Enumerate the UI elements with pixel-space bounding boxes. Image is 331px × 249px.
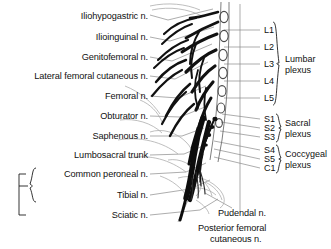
- segment-label-s3: S3: [264, 132, 275, 142]
- label-pudendal-nerve: Pudendal n.: [218, 208, 266, 218]
- brace-coccygeal-plexus: [276, 145, 281, 173]
- segment-label-l1: L1: [264, 25, 274, 35]
- label-coccygeal-plexus-line1: Coccygeal: [285, 149, 327, 160]
- figure-root: Iliohypogastric n. Ilioinguinal n. Genit…: [0, 0, 331, 249]
- label-femoral-nerve: Femoral n.: [105, 91, 148, 101]
- plexus-illustration: [0, 0, 331, 249]
- segment-label-c1: C1: [264, 163, 276, 173]
- label-tibial-nerve: Tibial n.: [117, 190, 148, 200]
- label-obturator-nerve: Obturator n.: [100, 111, 148, 121]
- label-genitofemoral-nerve: Genitofemoral n.: [82, 52, 148, 62]
- label-sciatic-nerve: Sciatic n.: [112, 210, 148, 220]
- segment-label-l3: L3: [264, 59, 274, 69]
- label-sacral-plexus-line2: plexus: [285, 128, 311, 139]
- leader-lines-left: [150, 9, 218, 215]
- label-lateral-femoral-cutaneous-nerve: Lateral femoral cutaneous n.: [34, 71, 148, 81]
- label-common-peroneal-nerve: Common peroneal n.: [64, 169, 148, 179]
- segment-label-l4: L4: [264, 76, 274, 86]
- segment-label-l2: L2: [264, 42, 274, 52]
- label-lumbosacral-trunk: Lumbosacral trunk: [74, 150, 148, 160]
- sacral-plexus-nerves: [180, 118, 209, 220]
- label-sacral-plexus-line1: Sacral: [285, 118, 311, 129]
- label-coccygeal-plexus-line2: plexus: [285, 159, 327, 170]
- label-lumbar-plexus-line1: Lumbar: [285, 54, 316, 65]
- label-ilioinguinal-nerve: Ilioinguinal n.: [96, 32, 148, 42]
- label-saphenous-nerve: Saphenous n.: [92, 131, 148, 141]
- label-coccygeal-plexus: Coccygeal plexus: [285, 149, 327, 170]
- label-posterior-femoral-cutaneous-nerve-line1: Posterior femoral: [198, 223, 266, 233]
- brace-sciatic-branches: [30, 168, 36, 202]
- label-lumbar-plexus-line2: plexus: [285, 64, 316, 75]
- segment-label-l5: L5: [264, 93, 274, 103]
- vertebral-bodies: [216, 11, 229, 127]
- label-sacral-plexus: Sacral plexus: [285, 118, 311, 139]
- label-lumbar-plexus: Lumbar plexus: [285, 54, 316, 75]
- label-iliohypogastric-nerve: Iliohypogastric n.: [81, 11, 148, 21]
- bracket-sciatic-group: [19, 174, 26, 215]
- label-posterior-femoral-cutaneous-nerve-line2: cutaneous n.: [210, 234, 261, 244]
- brace-sacral-plexus: [276, 114, 281, 142]
